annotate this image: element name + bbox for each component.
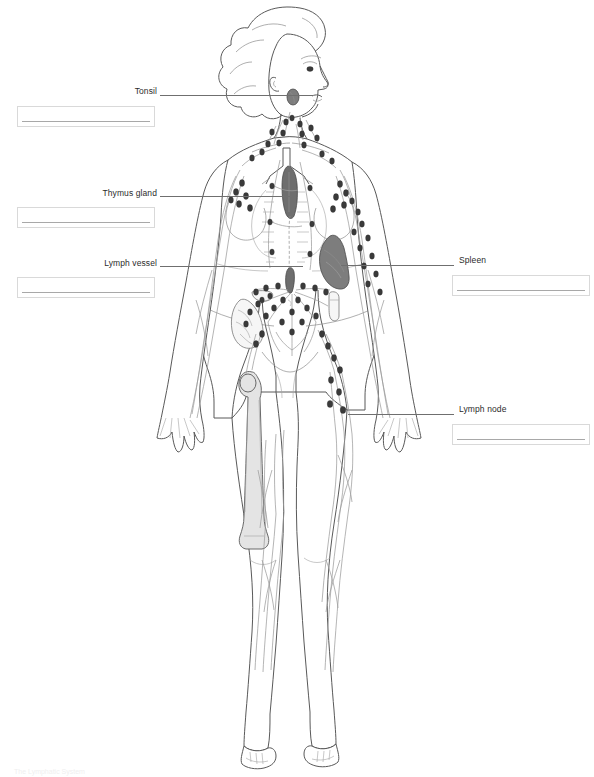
answer-box-spleen[interactable]: [452, 275, 590, 296]
hands: [160, 418, 418, 438]
thorax-hints: [252, 190, 327, 262]
leader-line-tonsil: [160, 95, 313, 96]
leader-line-lymph-vessel: [160, 266, 303, 267]
answer-box-lymph-node[interactable]: [452, 424, 590, 445]
spleen-organ: [319, 235, 349, 289]
torso-outline: [198, 137, 383, 418]
arms: [157, 160, 421, 452]
cisterna-chyli: [286, 268, 295, 294]
leader-line-spleen: [341, 265, 454, 266]
callout-label-tonsil: Tonsil: [135, 86, 157, 96]
callout-label-thymus-gland: Thymus gland: [102, 188, 157, 198]
leader-line-lymph-node: [348, 414, 454, 415]
callout-label-lymph-vessel: Lymph vessel: [104, 258, 157, 268]
answer-box-thymus-gland[interactable]: [17, 207, 155, 228]
answer-line: [22, 292, 150, 293]
thymus-gland: [282, 166, 297, 218]
callout-label-spleen: Spleen: [459, 255, 486, 265]
answer-line: [22, 222, 150, 223]
trachea-bronchi: [262, 148, 313, 184]
legs: [232, 392, 347, 751]
answer-box-lymph-vessel[interactable]: [17, 277, 155, 298]
answer-line: [22, 121, 150, 122]
tonsil-organ: [287, 89, 299, 105]
answer-box-tonsil[interactable]: [17, 106, 155, 127]
answer-line: [457, 439, 585, 440]
feet: [241, 744, 339, 769]
intestines: [231, 291, 339, 349]
thoracic-duct: [289, 216, 290, 268]
head-profile: [269, 34, 329, 117]
footer-caption: The Lymphatic System: [14, 768, 85, 775]
eye: [307, 67, 313, 72]
bone-marrow-femur: [239, 371, 269, 549]
hair: [219, 7, 326, 119]
leader-line-thymus-gland: [160, 196, 292, 197]
answer-line: [457, 290, 585, 291]
callout-label-lymph-node: Lymph node: [459, 404, 506, 414]
neck: [274, 114, 307, 139]
